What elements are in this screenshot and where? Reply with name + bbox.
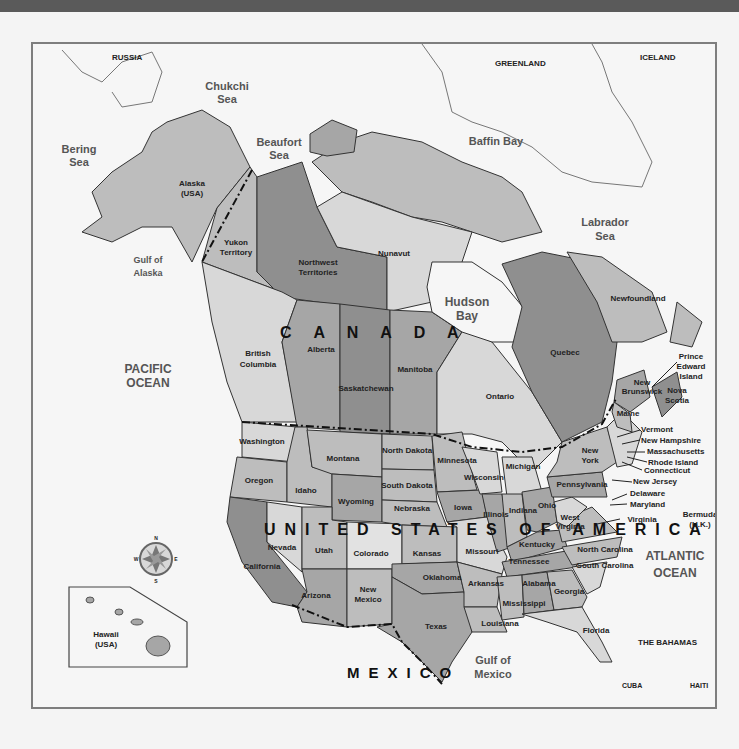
label-bering-sea-2: Sea bbox=[69, 156, 89, 168]
label-new-jersey: New Jersey bbox=[633, 477, 678, 486]
leader-de bbox=[612, 494, 627, 500]
label-illinois: Illinois bbox=[483, 510, 509, 519]
label-russia: RUSSIA bbox=[112, 53, 142, 62]
label-arkansas: Arkansas bbox=[468, 579, 505, 588]
label-new-mexico-2: Mexico bbox=[354, 595, 381, 604]
label-new-brunswick: New bbox=[634, 378, 651, 387]
label-yukon-2: Territory bbox=[220, 248, 253, 257]
label-bermuda-uk: (U.K.) bbox=[689, 520, 711, 529]
label-bc: British bbox=[245, 349, 270, 358]
label-pacific-ocean: PACIFIC bbox=[124, 362, 171, 376]
label-baffin-bay: Baffin Bay bbox=[469, 135, 524, 147]
label-newfoundland: Newfoundland bbox=[610, 294, 665, 303]
label-virginia: Virginia bbox=[627, 515, 657, 524]
label-south-carolina: South Carolina bbox=[577, 561, 634, 570]
label-manitoba: Manitoba bbox=[397, 365, 433, 374]
svg-text:N: N bbox=[154, 535, 158, 541]
label-beaufort-sea-2: Sea bbox=[269, 149, 289, 161]
leader-md bbox=[610, 504, 627, 505]
label-haiti: HAITI bbox=[690, 682, 708, 689]
label-wisconsin: Wisconsin bbox=[464, 473, 504, 482]
label-hudson-bay-2: Bay bbox=[456, 309, 478, 323]
label-gulf-of-alaska-2: Alaska bbox=[133, 268, 163, 278]
label-north-dakota: North Dakota bbox=[382, 446, 433, 455]
label-nebraska: Nebraska bbox=[394, 504, 431, 513]
label-hawaii: Hawaii bbox=[93, 630, 118, 639]
label-florida: Florida bbox=[583, 626, 610, 635]
label-nova-scotia: Nova bbox=[667, 386, 687, 395]
label-mississippi: Mississippi bbox=[502, 599, 545, 608]
label-nwt-2: Territories bbox=[299, 268, 339, 277]
label-atlantic-ocean-2: OCEAN bbox=[653, 566, 696, 580]
label-alaska: Alaska bbox=[179, 179, 205, 188]
label-north-carolina: North Carolina bbox=[577, 545, 633, 554]
label-nunavut: Nunavut bbox=[378, 249, 410, 258]
label-bc-2: Columbia bbox=[240, 360, 277, 369]
label-yukon: Yukon bbox=[224, 238, 248, 247]
label-bahamas: THE BAHAMAS bbox=[638, 638, 698, 647]
leader-nj bbox=[612, 480, 632, 482]
label-west-virginia: West bbox=[561, 513, 580, 522]
label-nova-scotia-2: Scotia bbox=[665, 396, 690, 405]
label-saskatchewan: Saskatchewan bbox=[338, 384, 393, 393]
label-wyoming: Wyoming bbox=[338, 497, 374, 506]
victoria-island bbox=[310, 120, 357, 156]
label-gulf-of-mexico: Gulf of bbox=[475, 654, 511, 666]
label-hudson-bay: Hudson bbox=[445, 295, 490, 309]
label-new-hampshire: New Hampshire bbox=[641, 436, 702, 445]
label-south-dakota: South Dakota bbox=[381, 481, 433, 490]
label-tennessee: Tennessee bbox=[509, 557, 550, 566]
label-maine: Maine bbox=[617, 409, 640, 418]
hawaii-maui bbox=[131, 619, 143, 625]
label-louisiana: Louisiana bbox=[481, 619, 519, 628]
label-gulf-of-mexico-2: Mexico bbox=[474, 668, 512, 680]
hawaii-kauai bbox=[86, 597, 94, 603]
label-pei-2: Edward bbox=[677, 362, 706, 371]
label-minnesota: Minnesota bbox=[437, 456, 477, 465]
label-new-brunswick-2: Brunswick bbox=[622, 387, 663, 396]
label-iowa: Iowa bbox=[454, 503, 472, 512]
hawaii-oahu bbox=[115, 609, 123, 615]
label-bering-sea: Bering bbox=[62, 143, 97, 155]
svg-text:W: W bbox=[134, 556, 139, 562]
label-west-virginia-2: Virginia bbox=[555, 522, 585, 531]
label-kentucky: Kentucky bbox=[519, 540, 556, 549]
label-labrador-sea: Labrador bbox=[581, 216, 629, 228]
label-new-york: New bbox=[582, 446, 599, 455]
label-ontario: Ontario bbox=[486, 392, 515, 401]
label-maryland: Maryland bbox=[630, 500, 665, 509]
label-canada: C A N A D A bbox=[280, 324, 468, 341]
label-iceland: ICELAND bbox=[640, 53, 676, 62]
label-new-york-2: York bbox=[581, 456, 599, 465]
label-vermont: Vermont bbox=[641, 425, 673, 434]
label-mexico: MEXICO bbox=[347, 664, 460, 681]
label-montana: Montana bbox=[327, 454, 360, 463]
newfoundland-island bbox=[670, 302, 702, 347]
label-hawaii-usa: (USA) bbox=[95, 640, 118, 649]
label-texas: Texas bbox=[425, 622, 448, 631]
label-oregon: Oregon bbox=[245, 476, 274, 485]
label-michigan: Michigan bbox=[506, 462, 541, 471]
label-ohio: Ohio bbox=[538, 501, 556, 510]
svg-text:S: S bbox=[154, 578, 158, 584]
label-quebec: Quebec bbox=[550, 348, 580, 357]
label-greenland: GREENLAND bbox=[495, 59, 546, 68]
hawaii-big-island bbox=[146, 636, 170, 656]
label-pei: Prince bbox=[679, 352, 704, 361]
label-delaware: Delaware bbox=[630, 489, 666, 498]
label-nevada: Nevada bbox=[268, 543, 297, 552]
svg-text:E: E bbox=[174, 556, 178, 562]
label-alabama: Alabama bbox=[522, 579, 556, 588]
label-gulf-of-alaska: Gulf of bbox=[134, 255, 164, 265]
top-bar bbox=[0, 0, 739, 12]
label-pacific-ocean-2: OCEAN bbox=[126, 376, 169, 390]
label-chukchi-sea: Chukchi bbox=[205, 80, 248, 92]
north-america-map: N S E W C A N A D A UNITED STATES OF AME… bbox=[33, 44, 715, 707]
label-pennsylvania: Pennsylvania bbox=[556, 480, 608, 489]
label-alaska-usa: (USA) bbox=[181, 189, 204, 198]
label-alberta: Alberta bbox=[307, 345, 335, 354]
label-kansas: Kansas bbox=[413, 549, 442, 558]
map-frame: N S E W C A N A D A UNITED STATES OF AME… bbox=[31, 42, 717, 709]
label-cuba: CUBA bbox=[622, 682, 642, 689]
label-georgia: Georgia bbox=[554, 587, 585, 596]
